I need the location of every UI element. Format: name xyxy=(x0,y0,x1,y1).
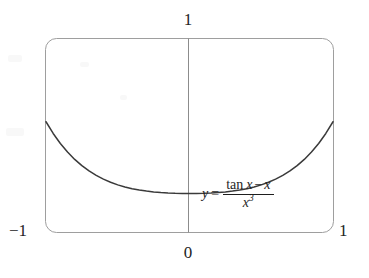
equation-fraction: tanx−x x3 xyxy=(223,178,273,210)
x-min-tick-label: −1 xyxy=(9,222,27,239)
equation-annotation: y = tanx−x x3 xyxy=(202,178,274,210)
y-max-tick-label: 1 xyxy=(0,11,369,28)
tan-operator: tan xyxy=(226,177,243,192)
plot-frame xyxy=(46,39,334,233)
denominator-exponent: 3 xyxy=(249,193,254,203)
numerator-variable-2: x xyxy=(264,177,270,192)
x-max-tick-label: 1 xyxy=(339,222,348,239)
equation-lhs: y xyxy=(202,186,208,202)
plot-canvas xyxy=(0,0,369,278)
minus-operator: − xyxy=(252,177,264,192)
function-graph-figure: 1 0 −1 1 y = tanx−x x3 xyxy=(0,0,369,278)
origin-tick-label: 0 xyxy=(0,244,369,261)
fraction-numerator: tanx−x xyxy=(223,178,273,194)
fraction-denominator: x3 xyxy=(240,195,257,211)
equation-equals-sign: = xyxy=(211,186,219,202)
curve-path xyxy=(46,122,333,194)
